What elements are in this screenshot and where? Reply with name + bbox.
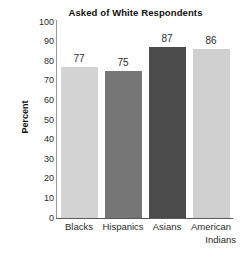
bar-value-label: 75	[117, 57, 128, 68]
y-tick-label: 80	[30, 57, 54, 66]
bar-value-label: 77	[73, 53, 84, 64]
bar-chart: Asked of White Respondents Percent 10090…	[0, 0, 243, 265]
y-tick-label: 20	[30, 174, 54, 183]
bar-hispanics[interactable]	[105, 71, 142, 218]
bar-asians[interactable]	[149, 47, 186, 218]
bar-slot: 86	[193, 22, 230, 218]
chart-title: Asked of White Respondents	[38, 7, 233, 18]
bar-slot: 77	[61, 22, 98, 218]
plot-area: 77758786	[57, 22, 233, 218]
y-tick-label: 10	[30, 194, 54, 203]
bar-slot: 75	[105, 22, 142, 218]
x-axis-line	[56, 218, 233, 219]
y-axis-tick-labels: 1009080706050403020100	[26, 0, 54, 265]
y-tick-label: 70	[30, 76, 54, 85]
bar-blacks[interactable]	[61, 67, 98, 218]
x-tick-label: AmericanIndians	[185, 221, 237, 246]
y-tick-label: 30	[30, 155, 54, 164]
bar-american-indians[interactable]	[193, 49, 230, 218]
y-tick-label: 50	[30, 116, 54, 125]
x-tick-label-line: Blacks	[65, 221, 93, 232]
x-axis-tick-labels: BlacksHispanicsAsiansAmericanIndians	[57, 221, 233, 263]
x-tick-label-line: Hispanics	[102, 221, 143, 232]
bar-value-label: 86	[205, 35, 216, 46]
y-tick-label: 60	[30, 96, 54, 105]
y-tick-label: 100	[30, 18, 54, 27]
y-tick-label: 0	[30, 214, 54, 223]
x-tick-label-line: American	[191, 221, 231, 232]
x-tick-label-line: Asians	[153, 221, 182, 232]
bar-slot: 87	[149, 22, 186, 218]
bar-series: 77758786	[57, 22, 233, 218]
x-tick-label-line: Indians	[185, 234, 237, 247]
y-tick-label: 90	[30, 37, 54, 46]
bar-value-label: 87	[161, 33, 172, 44]
y-tick-label: 40	[30, 135, 54, 144]
